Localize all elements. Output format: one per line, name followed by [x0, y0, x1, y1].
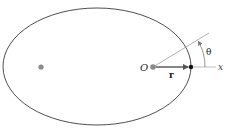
orbiting-point	[189, 65, 193, 69]
angle-line	[153, 33, 209, 67]
angle-label: θ	[206, 47, 211, 57]
radius-label: r	[169, 70, 174, 80]
origin-focus	[150, 64, 156, 70]
angle-arc	[199, 42, 206, 68]
origin-label: O	[140, 62, 148, 73]
orbit-diagram: O r θ x	[0, 0, 228, 132]
left-focus	[38, 64, 43, 69]
x-axis-label: x	[218, 62, 223, 72]
